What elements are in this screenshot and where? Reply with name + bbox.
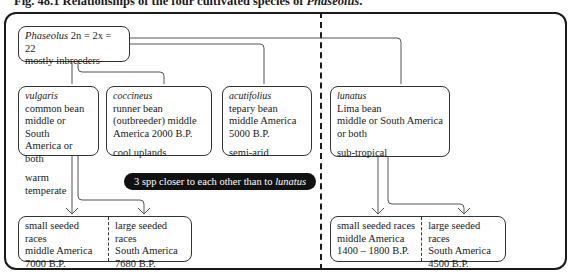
species-origin-cont: America or both <box>25 140 92 165</box>
species-common-name: common bean <box>25 103 92 116</box>
species-common-name: runner bean <box>113 103 205 116</box>
race-small-seeded: small seeded races middle America 1400 –… <box>331 217 421 261</box>
species-name: lunatus <box>337 90 443 103</box>
race-type: small seeded races <box>25 220 102 245</box>
species-origin: middle or South America <box>337 115 443 128</box>
root-box-phaseolus: Phaseolus 2n = 2x = 22 mostly inbreeders <box>18 26 130 62</box>
note-species: lunatus <box>275 176 306 187</box>
race-region: South America <box>428 245 499 258</box>
race-small-seeded: small seeded races middle America 7000 B… <box>19 217 108 261</box>
species-common-name: tepary bean <box>229 103 305 116</box>
root-genus: Phaseolus <box>25 30 68 41</box>
race-large-seeded: large seeded races South America 7680 B.… <box>108 217 191 261</box>
races-box-vulgaris: small seeded races middle America 7000 B… <box>18 216 192 262</box>
species-climate: semi-arid <box>229 147 305 160</box>
species-origin: middle or South <box>25 115 92 140</box>
species-box-acutifolius: acutifolius tepary bean middle America 5… <box>222 86 312 156</box>
species-origin-cont: 5000 B.P. <box>229 128 305 141</box>
species-origin-cont: America 2000 B.P. <box>113 128 205 141</box>
species-climate: cool uplands <box>113 147 205 160</box>
species-name: vulgaris <box>25 90 92 103</box>
race-date: 7680 B.P. <box>115 258 185 271</box>
race-type: large seeded races <box>428 220 499 245</box>
species-climate: warm temperate <box>25 172 92 197</box>
race-region: South America <box>115 245 185 258</box>
note-pill: 3 spp closer to each other than to lunat… <box>124 173 316 190</box>
root-note: mostly inbreeders <box>25 55 123 68</box>
root-title: Phaseolus 2n = 2x = 22 <box>25 30 123 55</box>
species-origin-cont: or both <box>337 128 443 141</box>
race-date: 4500 B.P. <box>428 258 499 271</box>
note-text: 3 spp closer to each other than to <box>134 176 275 187</box>
species-origin: middle America <box>229 115 305 128</box>
species-box-coccineus: coccineus runner bean (outbreeder) middl… <box>106 86 212 156</box>
species-name: coccineus <box>113 90 205 103</box>
race-date: 7000 B.P. <box>25 258 102 271</box>
race-date: 1400 – 1800 B.P. <box>337 245 415 258</box>
species-name: acutifolius <box>229 90 305 103</box>
species-climate: sub-tropical <box>337 147 443 160</box>
race-type: small seeded races <box>337 220 415 233</box>
race-large-seeded: large seeded races South America 4500 B.… <box>421 217 505 261</box>
species-box-lunatus: lunatus Lima bean middle or South Americ… <box>330 86 450 157</box>
race-type: large seeded races <box>115 220 185 245</box>
species-origin: (outbreeder) middle <box>113 115 205 128</box>
race-region: middle America <box>337 233 415 246</box>
species-box-vulgaris: vulgaris common bean middle or South Ame… <box>18 86 99 156</box>
species-common-name: Lima bean <box>337 103 443 116</box>
race-region: middle America <box>25 245 102 258</box>
races-box-lunatus: small seeded races middle America 1400 –… <box>330 216 506 262</box>
